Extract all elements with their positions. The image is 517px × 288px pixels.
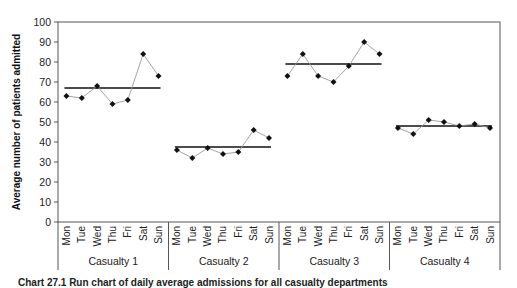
x-day-label: Fri — [454, 226, 465, 238]
x-day-label: Fri — [122, 226, 133, 238]
x-day-label: Sat — [138, 226, 149, 241]
y-tick-label: 40 — [39, 136, 51, 148]
data-point-marker — [156, 73, 162, 79]
x-group-label: Casualty 1 — [88, 255, 138, 267]
data-point-marker — [284, 73, 290, 79]
x-day-label: Thu — [107, 226, 118, 243]
x-day-label: Sun — [264, 226, 275, 244]
data-point-marker — [300, 51, 306, 57]
y-tick-label: 90 — [39, 36, 51, 48]
plot-area: 0102030405060708090100MonTueWedThuFriSat… — [33, 16, 500, 271]
x-day-label: Wed — [92, 226, 103, 246]
y-tick-label: 80 — [39, 56, 51, 68]
x-day-label: Tue — [297, 226, 308, 243]
x-day-label: Sun — [485, 226, 496, 244]
x-day-label: Thu — [328, 226, 339, 243]
x-day-label: Tue — [408, 226, 419, 243]
x-day-label: Wed — [202, 226, 213, 246]
x-day-label: Thu — [438, 226, 449, 243]
x-group-label: Casualty 4 — [420, 255, 470, 267]
x-day-label: Sun — [374, 226, 385, 244]
y-tick-label: 10 — [39, 196, 51, 208]
data-point-marker — [456, 123, 462, 129]
x-day-label: Mon — [171, 226, 182, 245]
data-point-marker — [315, 73, 321, 79]
x-day-label: Sun — [153, 226, 164, 244]
data-point-marker — [235, 149, 241, 155]
data-point-marker — [125, 97, 131, 103]
x-day-label: Tue — [76, 226, 87, 243]
data-point-marker — [220, 151, 226, 157]
data-point-marker — [189, 155, 195, 161]
data-point-marker — [441, 119, 447, 125]
x-day-label: Tue — [187, 226, 198, 243]
data-line — [287, 42, 379, 82]
data-point-marker — [266, 135, 272, 141]
x-day-label: Sat — [359, 226, 370, 241]
y-tick-label: 30 — [39, 156, 51, 168]
x-day-label: Thu — [217, 226, 228, 243]
plot-frame — [58, 22, 500, 222]
data-point-marker — [174, 147, 180, 153]
y-axis-label: Average number of patients admitted — [11, 34, 22, 210]
x-group-label: Casualty 2 — [199, 255, 249, 267]
y-tick-label: 50 — [39, 116, 51, 128]
y-tick-label: 70 — [39, 76, 51, 88]
x-day-label: Fri — [233, 226, 244, 238]
y-tick-label: 0 — [45, 216, 51, 228]
y-tick-label: 100 — [33, 16, 51, 28]
x-group-label: Casualty 3 — [309, 255, 359, 267]
y-tick-label: 20 — [39, 176, 51, 188]
x-day-label: Wed — [423, 226, 434, 246]
data-point-marker — [140, 51, 146, 57]
data-point-marker — [63, 93, 69, 99]
x-day-label: Fri — [343, 226, 354, 238]
x-day-label: Mon — [282, 226, 293, 245]
figure-caption: Chart 27.1 Run chart of daily average ad… — [18, 277, 388, 288]
x-day-label: Mon — [392, 226, 403, 245]
x-day-label: Wed — [313, 226, 324, 246]
x-day-label: Sat — [469, 226, 480, 241]
y-tick-label: 60 — [39, 96, 51, 108]
y-axis-title: Average number of patients admitted — [11, 34, 22, 210]
x-day-label: Mon — [61, 226, 72, 245]
x-day-label: Sat — [248, 226, 259, 241]
data-line — [66, 54, 158, 104]
data-point-marker — [251, 127, 257, 133]
data-point-marker — [205, 145, 211, 151]
